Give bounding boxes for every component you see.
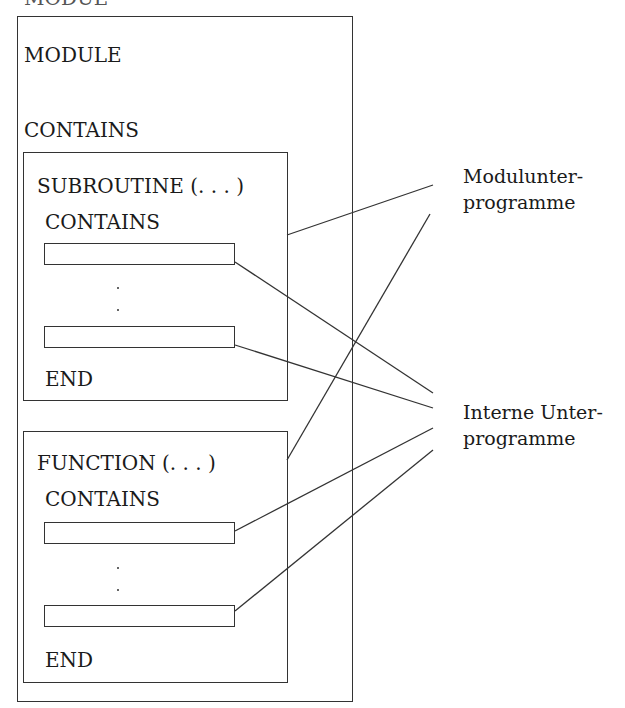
internal-procedures-label-line2: programme — [463, 426, 576, 450]
internal-procedures-label-line1: Interne Unter- — [463, 400, 603, 424]
module-procedures-label-line1: Modulunter- — [463, 164, 583, 188]
module-procedures-label-line2: programme — [463, 190, 576, 214]
connector-lines — [0, 0, 625, 708]
